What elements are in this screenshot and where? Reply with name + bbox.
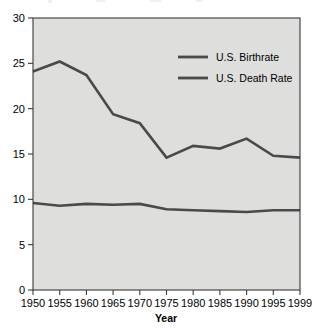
- x-tick-label-1960: 1960: [74, 297, 98, 309]
- chart-canvas: 051015202530 195019551960196519701975198…: [0, 0, 320, 328]
- y-tick-label-5: 5: [19, 239, 25, 251]
- x-tick-label-1999: 1999: [288, 297, 312, 309]
- y-tick-label-25: 25: [13, 57, 25, 69]
- x-axis-title: Year: [155, 312, 177, 324]
- legend-label-birthrate: U.S. Birthrate: [216, 51, 279, 63]
- y-tick-label-15: 15: [13, 148, 25, 160]
- y-tick-label-0: 0: [19, 284, 25, 296]
- x-tick-label-1965: 1965: [101, 297, 125, 309]
- x-tick-label-1955: 1955: [47, 297, 71, 309]
- x-tick-label-1980: 1980: [181, 297, 205, 309]
- x-tick-label-1990: 1990: [234, 297, 258, 309]
- y-tick-label-10: 10: [13, 193, 25, 205]
- x-tick-label-1975: 1975: [154, 297, 178, 309]
- x-tick-label-1970: 1970: [128, 297, 152, 309]
- y-tick-label-30: 30: [13, 12, 25, 24]
- x-tick-label-1995: 1995: [261, 297, 285, 309]
- x-axis-tick-labels: 1950195519601965197019751980198519901995…: [21, 297, 312, 309]
- x-tick-label-1985: 1985: [208, 297, 232, 309]
- x-tick-label-1950: 1950: [21, 297, 45, 309]
- line-chart: 051015202530 195019551960196519701975198…: [0, 0, 320, 328]
- y-tick-label-20: 20: [13, 103, 25, 115]
- legend-label-death-rate: U.S. Death Rate: [216, 72, 293, 84]
